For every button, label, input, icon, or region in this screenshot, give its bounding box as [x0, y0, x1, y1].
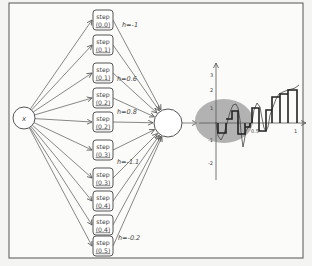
x-tick-0-5: 0.5 — [251, 128, 259, 134]
weight-label: h=-1 — [122, 21, 138, 29]
step-node-threshold: (0.1) — [96, 74, 111, 81]
y-tick-neg2: -2 — [208, 160, 213, 166]
y-tick-2: 2 — [210, 87, 213, 93]
step-node-threshold: (0.3) — [96, 151, 111, 158]
step-node-label: step — [96, 194, 109, 202]
step-node: step(0.3) — [93, 140, 113, 160]
y-tick-3: 3 — [210, 72, 213, 78]
step-node-label: step — [96, 143, 109, 151]
y-tick-1: 1 — [210, 105, 213, 111]
step-node-label: step — [96, 218, 109, 226]
input-node: x — [13, 107, 35, 129]
input-node-label: x — [21, 115, 27, 123]
neural-network-step-function-diagram: x step(0.0)step(0.1)step(0.1)step(0.2)st… — [0, 0, 312, 266]
weight-label: h=-0.2 — [118, 234, 140, 242]
step-node-threshold: (0.2) — [96, 123, 111, 130]
step-node: step(0.4) — [93, 191, 113, 211]
step-node-label: step — [96, 171, 109, 179]
step-node: step(0.4) — [93, 215, 113, 235]
step-node-threshold: (0.2) — [96, 99, 111, 106]
x-tick-1: 1 — [294, 128, 297, 134]
step-node: step(0.1) — [93, 63, 113, 83]
weight-label: h=0.8 — [117, 108, 137, 116]
sum-node — [154, 109, 182, 137]
step-node: step(0.5) — [93, 236, 113, 256]
weight-label: h=-1.1 — [117, 158, 139, 166]
step-node-label: step — [96, 115, 109, 123]
step-node-label: step — [96, 91, 109, 99]
step-node-threshold: (0.4) — [96, 202, 111, 209]
step-node: step(0.2) — [93, 112, 113, 132]
step-node: step(0.0) — [93, 10, 113, 30]
step-node-label: step — [96, 38, 109, 46]
step-node-threshold: (0.5) — [96, 247, 111, 254]
step-node: step(0.1) — [93, 35, 113, 55]
step-node-threshold: (0.0) — [96, 21, 111, 28]
step-node-threshold: (0.3) — [96, 179, 111, 186]
step-node-label: step — [96, 66, 109, 74]
step-node: step(0.3) — [93, 168, 113, 188]
step-node-threshold: (0.1) — [96, 46, 111, 53]
step-node-threshold: (0.4) — [96, 226, 111, 233]
weight-label: h=0.6 — [117, 75, 137, 83]
step-node-label: step — [96, 239, 109, 247]
step-node-label: step — [96, 13, 109, 21]
step-node: step(0.2) — [93, 88, 113, 108]
highlight-ellipse — [195, 99, 253, 143]
y-tick-neg1: -1 — [208, 137, 213, 143]
